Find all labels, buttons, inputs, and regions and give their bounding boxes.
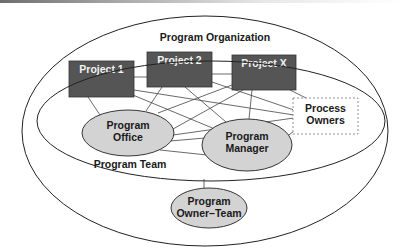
process-owners-label-line2: Owners [306,114,345,126]
project-x-label: Project X [241,57,287,69]
project-2-box: Project 2 [147,52,212,87]
program-team-label: Program Team [94,158,167,170]
program-organization-title: Program Organization [160,31,270,43]
project-2-label: Project 2 [157,54,202,66]
program-manager-label-line1: Program [225,130,268,142]
program-office-node: Program Office [82,110,174,156]
process-owners-box: Process Owners [293,98,358,134]
program-manager-node: Program Manager [202,119,292,171]
project-1-box: Project 1 [69,61,134,97]
program-office-label-line2: Office [113,131,143,143]
program-office-label-line1: Program [106,119,149,131]
program-manager-label-line2: Manager [225,142,268,154]
owner-team-label-line1: Program [187,195,230,207]
process-owners-label-line1: Process [305,102,346,114]
program-owner-team-node: Program Owner–Team [171,188,247,228]
project-1-label: Project 1 [79,63,124,75]
project-x-box: Project X [232,55,296,90]
program-organization-diagram: Project 1 Project 2 Project X Process Ow… [0,0,401,249]
owner-team-label-line2: Owner–Team [176,207,241,219]
